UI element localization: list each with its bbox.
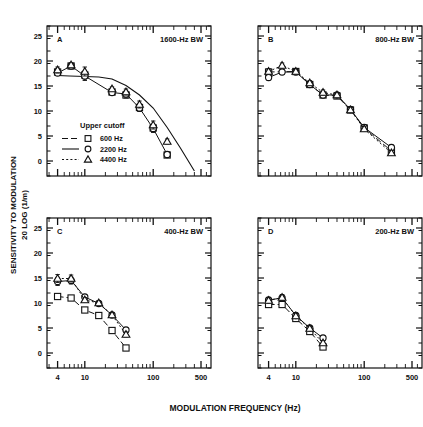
panel-letter-B: B (268, 35, 274, 44)
x-tick-label: 4 (56, 373, 61, 382)
marker-circle (279, 69, 285, 75)
y-tick-label: 15 (34, 82, 42, 91)
y-axis-title-line1: SENSITIVITY TO MODULATION (9, 156, 18, 274)
marker-triangle (81, 68, 89, 75)
series-line-4400-Hz (58, 279, 126, 335)
x-tick-label: 10 (81, 373, 89, 382)
y-tick-label: 0 (38, 157, 42, 166)
panel-frame-D (258, 218, 422, 368)
panel-D: 410100500D200-Hz BW (258, 218, 422, 382)
marker-square (279, 301, 285, 307)
y-tick-label: 20 (34, 57, 42, 66)
x-tick-label: 4 (267, 373, 272, 382)
y-tick-label: 25 (34, 224, 42, 233)
legend-label-2: 4400 Hz (100, 155, 127, 164)
series-line-600-Hz (269, 305, 323, 348)
panel-annotation-D: 200-Hz BW (375, 227, 415, 236)
y-tick-label: 0 (38, 349, 42, 358)
panel-A: 0510152025A1600-Hz BW (34, 26, 211, 176)
figure-canvas: 0510152025A1600-Hz BWB800-Hz BW051015202… (0, 0, 423, 427)
legend-label-0: 600 Hz (100, 134, 123, 143)
marker-triangle (163, 138, 171, 145)
series-line-4400-Hz (269, 66, 392, 154)
y-axis-title-line2: 20 LOG (1/m) (20, 190, 29, 240)
figure-root: 0510152025A1600-Hz BWB800-Hz BW051015202… (0, 0, 423, 427)
marker-triangle (54, 275, 62, 282)
panel-annotation-B: 800-Hz BW (375, 35, 415, 44)
panel-B: B800-Hz BW (258, 26, 422, 176)
panel-letter-A: A (57, 35, 63, 44)
y-tick-label: 10 (34, 299, 42, 308)
series-line-2200-Hz (58, 281, 126, 331)
panel-annotation-A: 1600-Hz BW (160, 35, 204, 44)
series-line-600-Hz (269, 72, 392, 152)
marker-triangle (84, 156, 91, 162)
marker-square (54, 293, 60, 299)
marker-triangle (67, 275, 75, 282)
x-tick-label: 500 (406, 373, 419, 382)
x-tick-label: 100 (358, 373, 371, 382)
series-line-600-Hz (58, 297, 126, 349)
marker-square (82, 307, 88, 313)
x-tick-label: 100 (147, 373, 160, 382)
panel-C: 0510152025410100500C400-Hz BW (34, 218, 211, 382)
x-tick-label: 10 (292, 373, 300, 382)
legend-title: Upper cutoff (80, 121, 125, 130)
marker-circle (265, 74, 271, 80)
series-line-2200-Hz (269, 72, 392, 148)
marker-square (68, 295, 74, 301)
marker-square (85, 136, 91, 142)
y-tick-label: 5 (38, 132, 42, 141)
marker-square (109, 327, 115, 333)
panel-frame-B (258, 26, 422, 176)
panel-letter-D: D (268, 227, 274, 236)
marker-circle (164, 151, 170, 157)
y-tick-label: 20 (34, 249, 42, 258)
y-tick-label: 5 (38, 324, 42, 333)
marker-circle (85, 146, 91, 152)
panel-letter-C: C (57, 227, 63, 236)
x-axis-title: MODULATION FREQUENCY (Hz) (170, 403, 301, 413)
panel-frame-A (47, 26, 211, 176)
marker-square (96, 312, 102, 318)
legend-label-1: 2200 Hz (100, 145, 127, 154)
marker-square (123, 345, 129, 351)
x-tick-label: 500 (195, 373, 208, 382)
y-tick-label: 10 (34, 107, 42, 116)
panel-annotation-C: 400-Hz BW (164, 227, 204, 236)
marker-triangle (278, 62, 286, 69)
y-tick-label: 25 (34, 32, 42, 41)
y-tick-label: 15 (34, 274, 42, 283)
legend: Upper cutoff600 Hz2200 Hz4400 Hz (62, 121, 127, 164)
